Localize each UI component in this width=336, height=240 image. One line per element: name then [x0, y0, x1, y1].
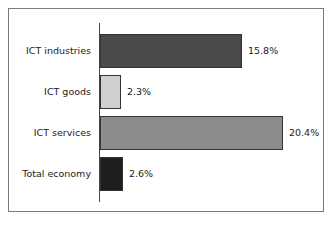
category-label: ICT services [34, 127, 91, 138]
value-label: 2.3% [127, 86, 151, 97]
category-label: Total economy [22, 168, 91, 179]
bar [100, 34, 242, 68]
bar [100, 116, 283, 150]
category-label: ICT industries [26, 45, 91, 56]
bar [100, 75, 121, 109]
value-label: 15.8% [248, 45, 278, 56]
bar [100, 157, 123, 191]
value-label: 20.4% [289, 127, 319, 138]
value-label: 2.6% [129, 168, 153, 179]
category-label: ICT goods [44, 86, 91, 97]
